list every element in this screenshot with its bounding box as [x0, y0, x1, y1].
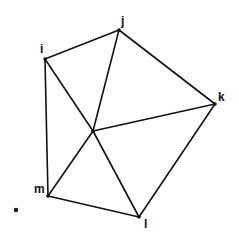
- edge-l-m: [48, 196, 139, 217]
- vertex-label-k: k: [218, 90, 225, 104]
- vertex-m: [46, 194, 50, 198]
- edge-i-j: [45, 30, 119, 59]
- vertex-label-m: m: [34, 182, 45, 196]
- edge-center-m: [48, 131, 93, 196]
- vertex-i: [43, 57, 47, 61]
- edge-center-i: [45, 59, 93, 131]
- edge-center-j: [93, 30, 119, 131]
- vertex-center: [91, 129, 95, 133]
- edge-k-l: [139, 104, 215, 217]
- vertex-l: [137, 215, 141, 219]
- edge-center-k: [93, 104, 215, 131]
- vertex-label-l: l: [144, 217, 147, 231]
- vertex-label-i: i: [40, 42, 43, 56]
- vertex-label-j: j: [120, 14, 124, 28]
- edges-group: [45, 30, 215, 217]
- isolated-point-0: [14, 208, 18, 212]
- edge-center-l: [93, 131, 139, 217]
- vertex-j: [117, 28, 121, 32]
- vertex-k: [213, 102, 217, 106]
- graph-diagram: i j k l m: [0, 0, 239, 240]
- edge-m-i: [45, 59, 48, 196]
- edge-j-k: [119, 30, 215, 104]
